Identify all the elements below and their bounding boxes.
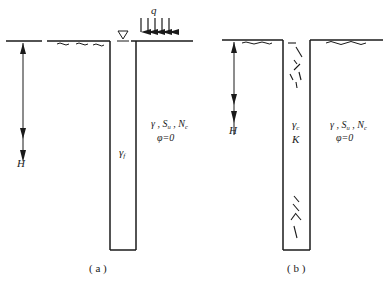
- soil-properties-label: γ , Su , Nc: [330, 119, 367, 131]
- depth-label-h: H: [228, 124, 238, 136]
- soil-properties-label: γ , Su , Nc: [151, 118, 188, 130]
- water-wave-marks: [57, 43, 104, 46]
- water-table-icon: [118, 31, 128, 39]
- figure-b: H γc K γ , Su , Nc φ=0 ( b ): [222, 40, 383, 275]
- slurry-k-label: K: [291, 133, 300, 145]
- friction-angle-label: φ=0: [336, 132, 353, 143]
- slurry-hatch-bottom-icon: [291, 196, 301, 238]
- slurry-hatch-top-icon: [288, 43, 302, 88]
- friction-angle-label: φ=0: [157, 132, 174, 143]
- load-label-q: q: [151, 4, 157, 16]
- surcharge-load-arrows-icon: [141, 18, 169, 32]
- depth-label-h: H: [16, 157, 26, 169]
- depth-dimension-arrow-icon: [20, 43, 26, 162]
- slurry-unit-weight-label: γc: [292, 118, 300, 132]
- water-wave-marks-right: [326, 42, 366, 45]
- caption-a: ( a ): [89, 262, 107, 275]
- fill-unit-weight-label: γf: [119, 146, 126, 160]
- figure-a: q H γf γ , Su , Nc φ=0 ( a ): [6, 4, 193, 275]
- caption-b: ( b ): [287, 262, 306, 275]
- depth-dimension-arrow-icon: [231, 42, 237, 135]
- water-wave-marks-left: [242, 42, 272, 44]
- trench-stability-diagram: q H γf γ , Su , Nc φ=0 ( a ): [0, 0, 387, 282]
